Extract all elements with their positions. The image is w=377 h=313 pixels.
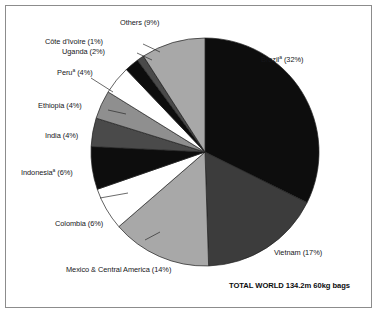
slice-label-indonesia: Indonesiaa (6%) (21, 168, 73, 177)
pie-chart-canvas (0, 0, 377, 313)
slice-label-indonesia-name: Indonesia (21, 168, 53, 177)
slice-label-peru: Perua (4%) (57, 68, 93, 77)
slice-label-brazil-percent: (32%) (282, 55, 303, 64)
leader-line-peru (91, 78, 113, 92)
pie-slice-group (91, 38, 319, 266)
slice-label-mexico-central-america: Mexico & Central America (14%) (66, 265, 171, 274)
slice-label-others: Others (9%) (120, 18, 159, 27)
slice-label-brazil: Brazila (32%) (261, 55, 303, 64)
slice-label-peru-name: Peru (57, 68, 72, 77)
pie-chart-figure: Brazila (32%) Vietnam (17%) Mexico & Cen… (0, 0, 377, 313)
total-world-note: TOTAL WORLD 134.2m 60kg bags (229, 281, 350, 290)
slice-label-colombia: Colombia (6%) (55, 219, 103, 228)
slice-label-uganda: Uganda (2%) (62, 47, 105, 56)
slice-label-india: India (4%) (45, 131, 78, 140)
slice-label-vietnam: Vietnam (17%) (274, 248, 322, 257)
slice-label-indonesia-percent: (6%) (55, 168, 72, 177)
slice-label-ethiopia: Ethiopia (4%) (38, 101, 82, 110)
slice-label-peru-percent: (4%) (75, 68, 92, 77)
slice-label-brazil-name: Brazil (261, 55, 279, 64)
slice-label-cote-divoire: Côte d'Ivoire (1%) (45, 37, 103, 46)
